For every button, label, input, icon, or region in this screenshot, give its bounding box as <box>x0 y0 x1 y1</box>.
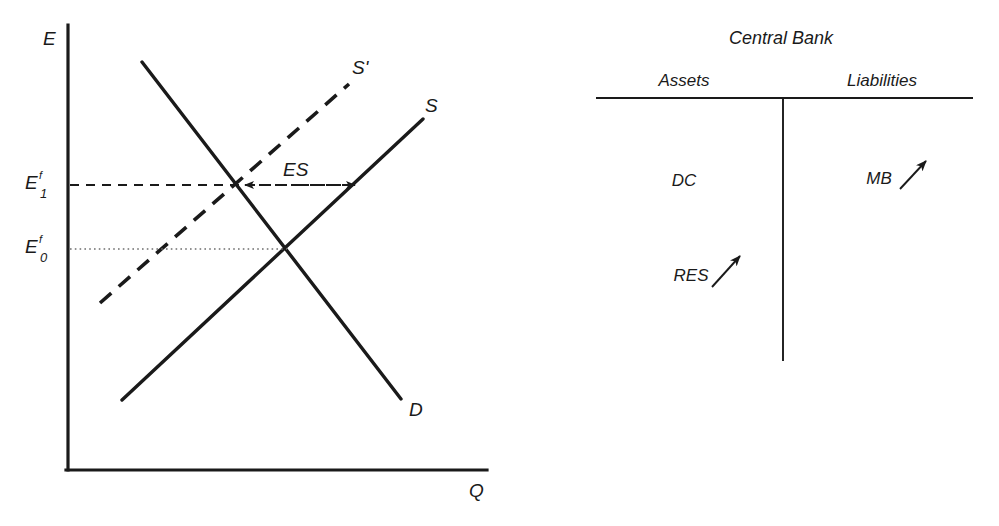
liability-entry-mb: MB <box>866 169 892 188</box>
asset-entry-dc: DC <box>672 171 697 190</box>
supply-shifted-curve-label: S' <box>352 57 370 78</box>
supply-curve <box>122 119 423 400</box>
e0-subscript: 0 <box>40 250 48 265</box>
e1-level-label: E f 1 <box>25 169 47 201</box>
liabilities-column-header: Liabilities <box>847 71 917 90</box>
y-axis-label: E <box>43 28 56 49</box>
supply-curve-shifted <box>100 84 349 303</box>
e1-base-letter: E <box>25 172 38 193</box>
e0-level-label: E f 0 <box>25 233 48 265</box>
figure-root: E Q S' S D ES E f 1 E f 0 Centra <box>0 0 999 526</box>
t-account-title: Central Bank <box>729 28 834 48</box>
asset-entry-res-up-arrow-icon <box>712 256 740 287</box>
e0-superscript: f <box>39 233 43 245</box>
asset-entry-res: RES <box>674 266 710 285</box>
e1-subscript: 1 <box>40 186 47 201</box>
e1-superscript: f <box>39 169 43 181</box>
assets-column-header: Assets <box>657 71 710 90</box>
supply-curve-label: S <box>425 95 438 116</box>
excess-supply-label: ES <box>283 159 309 180</box>
supply-demand-chart: E Q S' S D ES E f 1 E f 0 <box>25 25 487 501</box>
liability-entry-mb-up-arrow-icon <box>900 161 926 189</box>
e0-base-letter: E <box>25 236 38 257</box>
demand-curve-label: D <box>409 399 423 420</box>
x-axis-label: Q <box>469 480 484 501</box>
figure-canvas: E Q S' S D ES E f 1 E f 0 Centra <box>0 0 999 526</box>
central-bank-t-account: Central Bank Assets Liabilities DC RES M… <box>596 28 973 361</box>
